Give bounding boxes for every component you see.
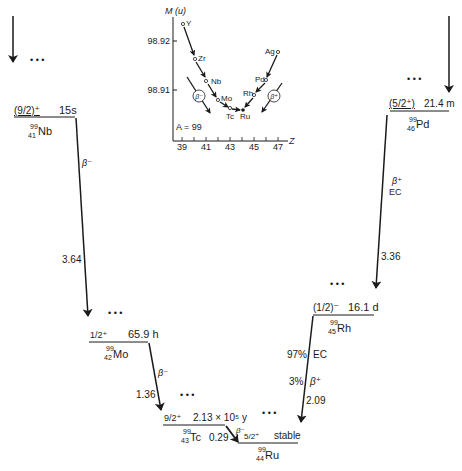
inset-x-tick: 45 bbox=[249, 142, 259, 152]
inset-x-axis-label: Z bbox=[288, 136, 295, 146]
mass-number-label: A = 99 bbox=[176, 122, 202, 132]
element-symbol: Tc bbox=[190, 431, 202, 443]
ellipsis: • • • bbox=[108, 308, 122, 318]
ellipsis: • • • bbox=[262, 408, 276, 418]
atomic-number: 45 bbox=[328, 328, 336, 335]
decay-diagram: M (u) 98.92 98.91 39 41 43 45 47 Z A = 9… bbox=[0, 0, 462, 471]
ec-branch-pct: 97% bbox=[287, 349, 307, 360]
half-life: 2.13 × 10⁵ y bbox=[193, 412, 247, 423]
ellipsis: • • • bbox=[180, 390, 194, 400]
decay-mode: β⁻ bbox=[157, 368, 168, 378]
spin-parity: 5/2⁺ bbox=[244, 432, 259, 441]
element-symbol: Mo bbox=[113, 348, 128, 360]
inset-y-tick: 98.92 bbox=[147, 36, 170, 46]
level-mo99: 1/2⁺ 65.9 h 99 42 Mo bbox=[89, 328, 159, 361]
spin-parity: (5/2⁺) bbox=[389, 98, 415, 109]
element-label: Mo bbox=[221, 94, 233, 103]
bp-branch-pct: 3% bbox=[289, 376, 304, 387]
element-label: Ru bbox=[240, 112, 250, 121]
inset-x-tick: 47 bbox=[273, 142, 283, 152]
bp-label: β⁺ bbox=[309, 376, 321, 387]
level-pd99: • • • (5/2⁺) 21.4 m 99 46 Pd bbox=[389, 16, 455, 132]
half-life: 15s bbox=[59, 104, 77, 116]
beta-minus-label: β⁻ bbox=[194, 93, 203, 101]
spin-parity: 1/2⁺ bbox=[90, 330, 108, 340]
atomic-number: 46 bbox=[407, 125, 415, 132]
element-label: Zr bbox=[198, 54, 206, 63]
atomic-number: 43 bbox=[181, 437, 189, 444]
element-symbol: Rh bbox=[337, 322, 351, 334]
half-life: 65.9 h bbox=[128, 328, 159, 340]
element-label: Pd bbox=[255, 75, 265, 84]
inset-x-tick: 39 bbox=[177, 142, 187, 152]
q-value: 1.36 bbox=[136, 389, 156, 400]
level-rh99: (1/2)⁻ 16.1 d 99 45 Rh bbox=[313, 301, 379, 335]
atomic-number: 42 bbox=[104, 354, 112, 361]
inset-x-tick: 43 bbox=[225, 142, 235, 152]
decay-mode: β⁺ bbox=[391, 176, 402, 186]
ellipsis: • • • bbox=[330, 279, 344, 289]
element-label: Ag bbox=[265, 47, 275, 56]
spin-parity: (9/2)⁺ bbox=[14, 105, 40, 116]
spin-parity: (1/2)⁻ bbox=[313, 302, 339, 313]
q-value: 0.29 bbox=[209, 432, 229, 443]
level-ru99: 5/2⁺ stable 99 44 Ru bbox=[238, 430, 301, 462]
half-life: 21.4 m bbox=[424, 98, 455, 109]
decay-arrow-pd-rh bbox=[376, 115, 387, 288]
beta-plus-label: β⁺ bbox=[269, 93, 278, 101]
inset-y-tick: 98.91 bbox=[147, 85, 170, 95]
half-life: 16.1 d bbox=[348, 301, 379, 313]
ellipsis: • • • bbox=[407, 74, 421, 84]
decay-mode: β⁻ bbox=[81, 158, 92, 168]
decay-arrow-nb-mo bbox=[76, 118, 88, 316]
inset-x-tick: 41 bbox=[201, 142, 211, 152]
half-life: stable bbox=[274, 430, 301, 441]
atomic-number: 44 bbox=[256, 455, 264, 462]
element-label: Tc bbox=[226, 112, 234, 121]
element-symbol: Pd bbox=[416, 118, 429, 130]
ec-label: EC bbox=[313, 349, 327, 360]
q-value: 3.64 bbox=[62, 254, 82, 265]
element-symbol: Ru bbox=[265, 449, 279, 461]
element-label: Y bbox=[186, 19, 192, 28]
level-tc99: 9/2⁺ 2.13 × 10⁵ y 99 43 Tc bbox=[163, 412, 247, 444]
ellipsis: • • • bbox=[30, 55, 44, 65]
element-symbol: Nb bbox=[38, 125, 52, 137]
mass-parabola-inset: M (u) 98.92 98.91 39 41 43 45 47 Z A = 9… bbox=[147, 6, 295, 152]
decay-mode: EC bbox=[389, 187, 402, 197]
spin-parity: 9/2⁺ bbox=[164, 413, 182, 423]
q-value: 2.09 bbox=[306, 395, 326, 406]
decay-arrow-rh-ru bbox=[301, 316, 313, 422]
q-value: 3.36 bbox=[381, 251, 401, 262]
mass-number: 99 bbox=[30, 123, 38, 130]
level-nb99: • • • (9/2)⁺ 15s 99 41 Nb bbox=[13, 16, 77, 139]
element-label: Nb bbox=[211, 77, 222, 86]
inset-y-axis-label: M (u) bbox=[165, 6, 186, 16]
element-label: Rh bbox=[243, 89, 253, 98]
atomic-number: 41 bbox=[28, 132, 36, 139]
